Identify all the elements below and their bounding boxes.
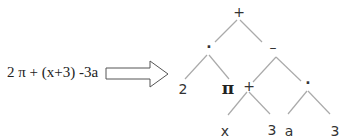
tree-leaf-3: 3 xyxy=(268,123,277,137)
right-arrow-icon xyxy=(106,61,168,87)
tree-leaf-x: x xyxy=(221,124,229,138)
expression-tree-diagram: 2 π + (x+3) -3a + · – 2 π + · x 3 a 3 xyxy=(0,0,346,139)
diagram-graphics xyxy=(0,0,346,139)
tree-node-multiply-2: · xyxy=(305,76,310,90)
tree-leaf-a: a xyxy=(285,124,294,138)
tree-node-minus: – xyxy=(270,40,277,54)
tree-node-multiply: · xyxy=(206,40,211,54)
tree-leaf-pi: π xyxy=(222,80,234,97)
tree-leaf-2: 2 xyxy=(179,82,188,96)
tree-node-root-plus: + xyxy=(233,5,245,19)
tree-node-plus: + xyxy=(243,79,255,93)
tree-leaf-3b: 3 xyxy=(331,124,340,138)
tree-edges xyxy=(185,20,330,115)
